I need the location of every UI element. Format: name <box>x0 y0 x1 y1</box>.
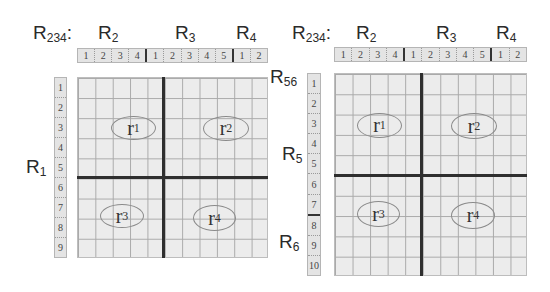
col-header-cell: 3 <box>182 49 199 62</box>
row-header-cell: 9 <box>308 236 320 256</box>
col-header-cell: 2 <box>95 49 112 62</box>
left-col-group-r4: R4 <box>236 23 256 44</box>
left-row-header: 1 2 3 4 5 6 7 8 9 <box>54 77 67 258</box>
row-header-cell: 8 <box>55 218 66 238</box>
col-header-cell: 5 <box>474 48 492 61</box>
col-header-cell: 2 <box>164 49 181 62</box>
right-col-group-r2: R2 <box>356 23 376 44</box>
partition-diagram: R234: R2 R3 R4 1 2 3 4 1 2 3 4 5 1 2 R1 … <box>0 0 550 292</box>
col-header-cell: 3 <box>370 48 387 61</box>
left-region-r4: r4 <box>193 205 236 231</box>
left-region-r2: r2 <box>203 116 249 141</box>
row-header-cell: 5 <box>308 154 320 174</box>
col-header-cell: 1 <box>234 49 251 62</box>
col-header-cell: 1 <box>335 48 352 61</box>
left-row-group-r1: R1 <box>26 157 46 178</box>
row-header-cell: 3 <box>55 118 66 138</box>
col-header-cell: 3 <box>112 49 129 62</box>
right-region-r3: r3 <box>357 201 400 227</box>
right-horizontal-divider <box>334 174 527 177</box>
col-header-cell: 1 <box>405 48 422 61</box>
right-row-group-r5: R5 <box>282 144 302 165</box>
row-header-cell: 4 <box>55 138 66 158</box>
left-vertical-divider <box>162 77 165 258</box>
row-header-cell: 5 <box>55 158 66 178</box>
row-header-cell: 6 <box>55 178 66 198</box>
col-header-cell: 4 <box>387 48 405 61</box>
right-region-r1: r1 <box>357 113 402 138</box>
row-header-cell: 2 <box>308 94 320 114</box>
left-region-r1: r1 <box>111 116 156 140</box>
col-header-cell: 1 <box>147 49 164 62</box>
col-header-cell: 1 <box>78 49 95 62</box>
col-header-cell: 2 <box>510 48 526 61</box>
right-region-r2: r2 <box>451 113 497 139</box>
right-region-r4: r4 <box>451 202 495 229</box>
row-header-cell: 6 <box>308 174 320 194</box>
col-header-cell: 4 <box>129 49 147 62</box>
right-title: R234: <box>292 23 331 44</box>
col-header-cell: 2 <box>251 49 267 62</box>
row-header-cell: 1 <box>55 78 66 98</box>
col-header-cell: 2 <box>422 48 439 61</box>
col-header-cell: 3 <box>440 48 457 61</box>
col-header-cell: 4 <box>199 49 216 62</box>
left-title: R234: <box>33 23 72 44</box>
right-row-header: 1 2 3 4 5 6 7 8 9 10 <box>307 73 321 276</box>
row-header-cell: 10 <box>308 256 320 275</box>
left-col-group-r3: R3 <box>175 23 195 44</box>
right-row-group-r56: R56 <box>270 67 297 88</box>
col-header-cell: 1 <box>492 48 509 61</box>
col-header-cell: 2 <box>352 48 369 61</box>
left-region-r3: r3 <box>100 204 144 228</box>
row-header-cell: 4 <box>308 134 320 154</box>
row-header-cell: 8 <box>308 216 320 236</box>
row-header-cell: 7 <box>308 195 320 216</box>
right-row-group-r6: R6 <box>279 232 299 253</box>
row-header-cell: 3 <box>308 114 320 134</box>
left-col-group-r2: R2 <box>98 23 118 44</box>
col-header-cell: 4 <box>457 48 474 61</box>
row-header-cell: 9 <box>55 238 66 257</box>
col-header-cell: 5 <box>216 49 234 62</box>
right-col-group-r4: R4 <box>496 23 516 44</box>
left-column-header: 1 2 3 4 1 2 3 4 5 1 2 <box>77 48 268 63</box>
right-column-header: 1 2 3 4 1 2 3 4 5 1 2 <box>334 47 527 62</box>
row-header-cell: 1 <box>308 74 320 94</box>
left-horizontal-divider <box>77 176 268 179</box>
right-col-group-r3: R3 <box>436 23 456 44</box>
row-header-cell: 2 <box>55 98 66 118</box>
left-grid <box>77 77 268 258</box>
row-header-cell: 7 <box>55 198 66 218</box>
